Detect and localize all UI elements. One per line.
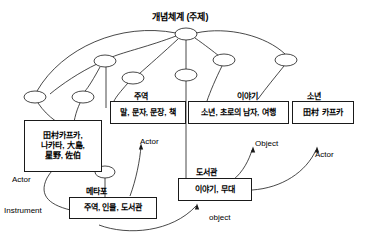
edge-root-lefthub: [112, 36, 176, 57]
node-n-far-right[interactable]: [275, 54, 297, 66]
box-library[interactable]: 이야기, 무대: [178, 178, 252, 201]
relation-object-upper: Object: [255, 139, 278, 148]
relation-actor-right: Actor: [315, 150, 334, 159]
box-story-elements[interactable]: 소년, 초로의 남자, 여행: [188, 101, 289, 124]
box-metaphor[interactable]: 주역, 인물, 도서관: [69, 197, 157, 219]
relation-actor-middle: Actor: [140, 137, 159, 146]
edge-leftdown-3: [50, 64, 97, 94]
box-text-line: 星野, 佐伯: [45, 151, 81, 161]
box-text-line: 이야기, 무대: [195, 185, 234, 195]
node-n-left-low[interactable]: [72, 91, 94, 103]
diagram-title: 개념체계 (주제): [152, 10, 209, 23]
edge-root-midleft: [139, 39, 178, 74]
node-n-far-left[interactable]: [24, 91, 46, 103]
edge-right-story: [207, 66, 222, 101]
node-root[interactable]: [175, 28, 197, 40]
edge-actor-mid-arrow: [130, 146, 141, 196]
box-text-line: 田村 카프카: [303, 108, 342, 118]
edge-object-up-arrow: [233, 150, 252, 180]
caption-iyagi: 이야기: [237, 90, 258, 101]
box-text-line: 나카타, 大島,: [41, 141, 85, 151]
edge-leftdown-1: [85, 67, 100, 91]
node-n-center[interactable]: [175, 69, 197, 81]
box-text-line: 소년, 초로의 남자, 여행: [201, 108, 275, 118]
box-text-line: 주역, 인물, 도서관: [84, 203, 142, 213]
box-kafka[interactable]: 田村 카프카: [292, 101, 354, 124]
relation-actor-left: Actor: [12, 175, 31, 184]
caption-jueok: 주역: [134, 90, 148, 101]
caption-doseogwan: 도서관: [196, 166, 217, 177]
box-characters[interactable]: 田村카프카,나카타, 大島,星野, 佐伯: [24, 120, 102, 172]
edge-actor-right-arrow: [252, 150, 316, 190]
box-text-line: 田村카프카,: [43, 131, 82, 141]
box-text-line: 말, 문자, 문장, 책: [120, 108, 175, 118]
caption-metaphor: 메타포: [86, 185, 107, 196]
node-n-left-hub[interactable]: [94, 55, 116, 67]
node-n-right[interactable]: [213, 54, 235, 66]
relation-object-lower: object: [209, 213, 230, 222]
edge-root-farright: [196, 31, 285, 54]
edge-midleft-lang: [114, 83, 128, 101]
relation-instrument: Instrument: [4, 206, 42, 215]
edge-farright-kafka: [258, 66, 284, 99]
box-language[interactable]: 말, 문자, 문장, 책: [110, 101, 186, 124]
edge-root-right: [195, 38, 219, 56]
diagram-canvas: 개념체계 (주제) 田村카프카,나카타, 大島,星野, 佐伯말, 문자, 문장,…: [0, 0, 375, 251]
node-n-mid-left[interactable]: [122, 72, 144, 84]
caption-sonyeon: 소년: [307, 90, 321, 101]
